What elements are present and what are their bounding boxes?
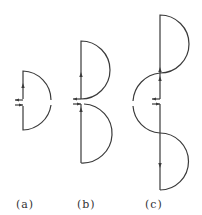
panel-c-label: (c) (145, 198, 163, 211)
figure-canvas: (a) (b) (c) (0, 0, 202, 215)
arrow-icon (15, 99, 19, 102)
arrow-icon (158, 76, 161, 81)
diagram-svg (0, 0, 202, 215)
arrow-icon (158, 67, 161, 72)
arrow-icon (21, 83, 24, 88)
panel-c-drawing (133, 15, 189, 190)
panel-b-drawing (73, 41, 112, 163)
arrow-icon (73, 98, 77, 101)
panel-b-label: (b) (77, 198, 96, 211)
arrow-icon (79, 107, 82, 112)
panel-a-label: (a) (16, 198, 34, 211)
arrow-icon (79, 72, 82, 77)
arrow-icon (152, 98, 156, 101)
panel-a-drawing (15, 71, 51, 130)
arrow-icon (158, 163, 161, 168)
